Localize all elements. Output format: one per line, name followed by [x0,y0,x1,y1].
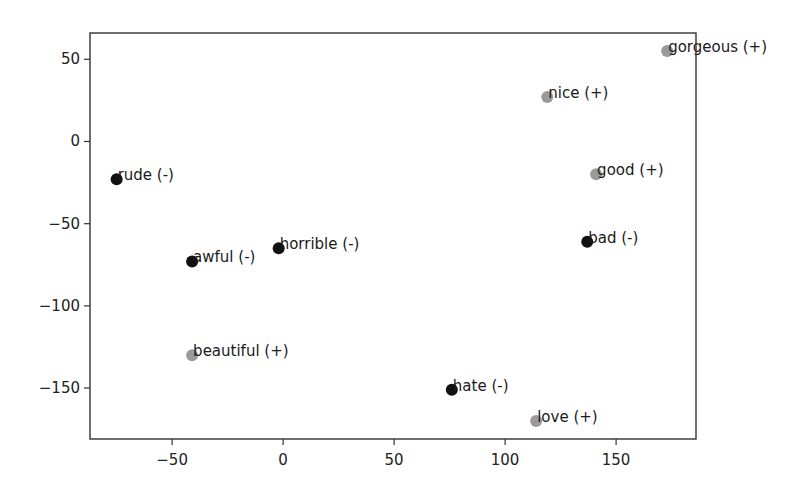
data-point: awful (-) [186,248,255,267]
x-tick-label: 150 [602,451,631,469]
y-tick-label: −100 [39,297,80,315]
point-label: horrible (-) [280,235,360,253]
x-tick-label: 0 [278,451,288,469]
data-point: good (+) [590,161,663,180]
point-label: love (+) [537,408,598,426]
x-tick-label: −50 [156,451,188,469]
data-point: love (+) [530,408,598,427]
point-label: gorgeous (+) [668,38,767,56]
point-label: bad (-) [588,229,638,247]
data-point: nice (+) [541,84,608,103]
x-tick-label: 100 [491,451,520,469]
data-point: horrible (-) [273,235,360,254]
point-label: rude (-) [118,166,174,184]
chart-background [0,0,810,498]
y-tick-label: −50 [48,215,80,233]
data-point: beautiful (+) [186,342,289,361]
data-point: gorgeous (+) [661,38,767,57]
point-label: nice (+) [548,84,608,102]
point-label: good (+) [597,161,663,179]
data-point: rude (-) [111,166,174,185]
data-point: hate (-) [446,377,509,396]
point-label: hate (-) [453,377,509,395]
x-tick-label: 50 [385,451,404,469]
point-label: beautiful (+) [193,342,289,360]
y-tick-label: 0 [70,132,80,150]
y-tick-label: 50 [61,50,80,68]
data-point: bad (-) [581,229,638,248]
y-tick-label: −150 [39,379,80,397]
scatter-chart: −50050100150 500−50−100−150 rude (-)awfu… [0,0,810,498]
point-label: awful (-) [193,248,255,266]
